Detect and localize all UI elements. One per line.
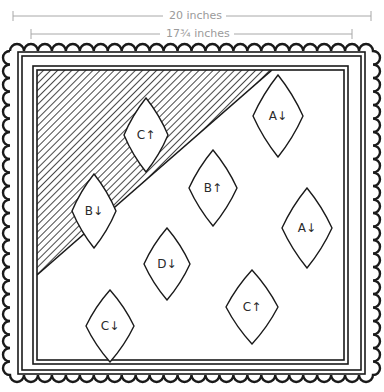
piece-label-c-up-bottom: C↑ — [243, 300, 261, 314]
piece-label-b-down: B↓ — [85, 204, 103, 218]
inner-dimension-label: 17¾ inches — [162, 28, 234, 40]
quilt-diagram: 20 inches 17¾ inches C↑A↓B↓B↑A↓D↓C↑C↓ — [0, 0, 384, 392]
piece-label-b-up: B↑ — [204, 181, 222, 195]
outer-dimension-label: 20 inches — [165, 10, 226, 22]
diagram-canvas — [0, 0, 384, 392]
piece-label-a-down-right: A↓ — [298, 221, 316, 235]
piece-label-c-down: C↓ — [101, 319, 119, 333]
piece-label-d-down: D↓ — [157, 257, 176, 271]
piece-label-c-up-top: C↑ — [137, 128, 155, 142]
piece-label-a-down-top: A↓ — [269, 109, 287, 123]
